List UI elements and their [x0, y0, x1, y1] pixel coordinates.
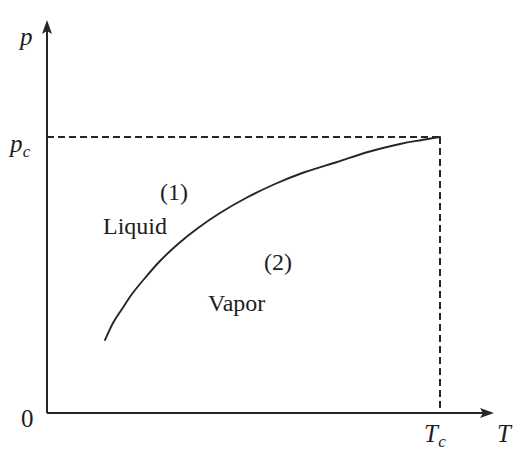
critical-temperature-symbol: T — [424, 420, 438, 447]
critical-pressure-subscript: c — [23, 142, 31, 161]
region-1-name-liquid: Liquid — [103, 214, 167, 238]
x-axis-label-temperature: T — [497, 421, 511, 446]
critical-temperature-subscript: c — [438, 432, 446, 451]
region-1-number: (1) — [160, 180, 188, 204]
y-axis-label-pressure: p — [20, 24, 33, 49]
region-2-number: (2) — [264, 250, 292, 274]
origin-label: 0 — [21, 406, 34, 431]
critical-pressure-symbol: p — [10, 130, 23, 157]
critical-temperature-label: Tc — [424, 421, 445, 446]
phase-diagram-figure: p pc 0 T Tc (1) Liquid (2) Vapor — [0, 0, 524, 465]
diagram-canvas — [0, 0, 524, 465]
region-2-name-vapor: Vapor — [208, 291, 265, 315]
critical-pressure-label: pc — [10, 131, 30, 156]
